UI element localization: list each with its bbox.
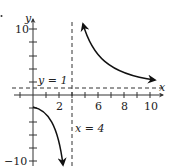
left-branch-curve <box>33 107 63 165</box>
y-tick-label-neg10: −10 <box>4 155 27 168</box>
x-axis-label: x <box>159 81 166 94</box>
y-tick-label-10: 10 <box>15 23 29 36</box>
x-tick-label-8: 8 <box>121 100 128 113</box>
right-branch-curve <box>83 24 155 80</box>
stray-dot <box>1 15 3 17</box>
x-tick-label-6: 6 <box>95 100 102 113</box>
vertical-asymptote-label: x = 4 <box>75 122 104 135</box>
x-tick-label-10: 10 <box>144 100 158 113</box>
rational-function-graph: y x 10 −10 2 6 8 10 y = 1 x = 4 <box>0 0 169 168</box>
horizontal-asymptote-label: y = 1 <box>37 74 67 87</box>
x-tick-label-2: 2 <box>56 100 63 113</box>
